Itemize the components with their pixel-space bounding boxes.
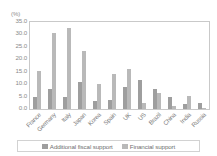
bar-group (105, 22, 120, 109)
legend-label: Additional fiscal support (50, 143, 113, 150)
x-axis-slot: US (134, 110, 149, 136)
y-axis-tick-label: 30.0 (16, 30, 27, 36)
bar-group (45, 22, 60, 109)
bar-group (164, 22, 179, 109)
y-axis: 35.030.025.020.015.010.05.00.0 (0, 21, 29, 110)
bar-group (75, 22, 90, 109)
bar-group (120, 22, 135, 109)
bar-group (134, 22, 149, 109)
x-axis-tick-label: Brazil (147, 111, 162, 126)
bar (67, 28, 71, 109)
x-axis-slot: Germany (45, 110, 60, 136)
x-axis-slot: Russia (194, 110, 209, 136)
y-axis-tick-label: 25.0 (16, 43, 27, 49)
y-axis-tick-label: 5.0 (19, 93, 27, 99)
bar (187, 96, 191, 109)
bar (97, 84, 101, 109)
bar-group (194, 22, 209, 109)
x-axis-slot: China (164, 110, 179, 136)
legend-swatch-icon (42, 144, 48, 149)
legend-swatch-icon (122, 144, 128, 149)
bar (112, 74, 116, 109)
y-axis-tick-label: 35.0 (16, 18, 27, 24)
bar (157, 93, 161, 109)
x-axis: FranceGermanyItalyJapanKoreaSpainUKUSBra… (30, 110, 209, 136)
bar (82, 51, 86, 109)
x-axis-tick-label: China (161, 111, 177, 127)
bar-group (179, 22, 194, 109)
bar (202, 108, 206, 109)
y-axis-tick-label: 15.0 (16, 68, 27, 74)
bar (52, 33, 56, 109)
bar-chart: (%) 35.030.025.020.015.010.05.00.0 Franc… (0, 0, 217, 156)
bar (142, 103, 146, 109)
bar (127, 69, 131, 109)
y-axis-tick-label: 10.0 (16, 80, 27, 86)
x-axis-slot: UK (120, 110, 135, 136)
legend-item[interactable]: Additional fiscal support (42, 143, 113, 150)
legend-label: Financial support (130, 143, 175, 150)
x-axis-tick-label: Korea (86, 111, 102, 127)
x-axis-tick-label: US (136, 111, 147, 122)
x-axis-tick-label: Spain (102, 111, 117, 126)
bar-group (60, 22, 75, 109)
bars-layer (30, 22, 209, 109)
bar (37, 71, 41, 109)
bar (172, 106, 176, 109)
bar-group (90, 22, 105, 109)
chart-legend: Additional fiscal supportFinancial suppo… (17, 140, 200, 152)
bar-group (30, 22, 45, 109)
x-axis-slot: Spain (105, 110, 120, 136)
legend-item[interactable]: Financial support (122, 143, 175, 150)
x-axis-tick-label: UK (121, 111, 132, 122)
y-axis-tick-label: 0.0 (19, 105, 27, 111)
bar-group (149, 22, 164, 109)
x-axis-slot: Korea (90, 110, 105, 136)
y-axis-tick-label: 20.0 (16, 55, 27, 61)
